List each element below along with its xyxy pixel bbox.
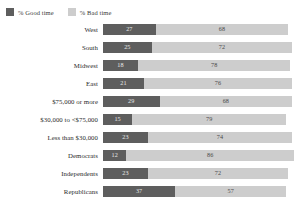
chart-bar-row: Democrats1286 bbox=[0, 146, 306, 164]
category-label: Midwest bbox=[0, 62, 103, 69]
bar-segment-bad-time[interactable]: 78 bbox=[138, 60, 290, 71]
bar-value-bad-time: 86 bbox=[207, 152, 213, 158]
bar-segment-good-time[interactable]: 23 bbox=[103, 168, 148, 179]
bar-value-bad-time: 78 bbox=[211, 62, 217, 68]
legend-item-label: % Good time bbox=[18, 9, 54, 16]
category-label: East bbox=[0, 80, 103, 87]
bar-segment-good-time[interactable]: 29 bbox=[103, 96, 160, 107]
chart-legend: % Good time% Bad time bbox=[0, 0, 306, 19]
bar-value-good-time: 27 bbox=[126, 26, 132, 32]
bar-segment-good-time[interactable]: 23 bbox=[103, 132, 148, 143]
bar-track: 1579 bbox=[103, 114, 306, 125]
chart-bar-row: Less than $30,0002374 bbox=[0, 128, 306, 146]
bar-value-good-time: 37 bbox=[136, 188, 142, 194]
bar-segment-good-time[interactable]: 15 bbox=[103, 114, 132, 125]
bar-value-bad-time: 79 bbox=[206, 116, 212, 122]
bar-track: 2572 bbox=[103, 42, 306, 53]
category-label: $30,000 to <$75,000 bbox=[0, 116, 103, 123]
category-label: $75,000 or more bbox=[0, 98, 103, 105]
bar-segment-bad-time[interactable]: 79 bbox=[132, 114, 286, 125]
legend-swatch-good bbox=[6, 8, 14, 16]
bar-value-bad-time: 72 bbox=[219, 44, 225, 50]
chart-bar-row: West2768 bbox=[0, 20, 306, 38]
bar-value-bad-time: 76 bbox=[215, 80, 221, 86]
bar-segment-good-time[interactable]: 25 bbox=[103, 42, 152, 53]
bar-value-bad-time: 72 bbox=[215, 170, 221, 176]
bar-value-bad-time: 57 bbox=[228, 188, 234, 194]
bar-value-good-time: 15 bbox=[114, 116, 120, 122]
chart-plot-area: West2768South2572Midwest1878East2176$75,… bbox=[0, 20, 306, 200]
chart-bar-row: $75,000 or more2968 bbox=[0, 92, 306, 110]
bar-segment-good-time[interactable]: 27 bbox=[103, 24, 156, 35]
bar-value-good-time: 18 bbox=[117, 62, 123, 68]
category-label: Republicans bbox=[0, 188, 103, 195]
bar-track: 2176 bbox=[103, 78, 306, 89]
bar-value-good-time: 23 bbox=[122, 134, 128, 140]
legend-item-label: % Bad time bbox=[80, 9, 112, 16]
category-label: Democrats bbox=[0, 152, 103, 159]
legend-item[interactable]: % Bad time bbox=[68, 8, 112, 16]
chart-bar-row: $30,000 to <$75,0001579 bbox=[0, 110, 306, 128]
bar-value-good-time: 12 bbox=[112, 152, 118, 158]
bar-value-good-time: 23 bbox=[122, 170, 128, 176]
bar-segment-bad-time[interactable]: 57 bbox=[175, 186, 286, 197]
bar-value-good-time: 25 bbox=[124, 44, 130, 50]
bar-value-good-time: 29 bbox=[128, 98, 134, 104]
bar-track: 2372 bbox=[103, 168, 306, 179]
bar-track: 3757 bbox=[103, 186, 306, 197]
bar-segment-bad-time[interactable]: 74 bbox=[148, 132, 292, 143]
legend-swatch-bad bbox=[68, 8, 76, 16]
category-label: South bbox=[0, 44, 103, 51]
bar-segment-bad-time[interactable]: 72 bbox=[148, 168, 288, 179]
chart-bar-row: Republicans3757 bbox=[0, 182, 306, 200]
bar-segment-bad-time[interactable]: 76 bbox=[144, 78, 292, 89]
bar-segment-bad-time[interactable]: 68 bbox=[160, 96, 293, 107]
bar-track: 2768 bbox=[103, 24, 306, 35]
bar-segment-good-time[interactable]: 21 bbox=[103, 78, 144, 89]
category-label: West bbox=[0, 26, 103, 33]
bar-segment-bad-time[interactable]: 68 bbox=[156, 24, 289, 35]
bar-track: 1878 bbox=[103, 60, 306, 71]
chart-bar-row: Independents2372 bbox=[0, 164, 306, 182]
bar-segment-bad-time[interactable]: 86 bbox=[126, 150, 294, 161]
bar-segment-good-time[interactable]: 12 bbox=[103, 150, 126, 161]
bar-value-bad-time: 74 bbox=[217, 134, 223, 140]
chart-bar-row: South2572 bbox=[0, 38, 306, 56]
chart-bar-row: Midwest1878 bbox=[0, 56, 306, 74]
category-label: Less than $30,000 bbox=[0, 134, 103, 141]
bar-track: 2374 bbox=[103, 132, 306, 143]
bar-value-good-time: 21 bbox=[120, 80, 126, 86]
stacked-bar-chart: % Good time% Bad time West2768South2572M… bbox=[0, 0, 306, 202]
legend-item[interactable]: % Good time bbox=[6, 8, 54, 16]
bar-track: 1286 bbox=[103, 150, 306, 161]
bar-value-bad-time: 68 bbox=[219, 26, 225, 32]
bar-track: 2968 bbox=[103, 96, 306, 107]
chart-bar-row: East2176 bbox=[0, 74, 306, 92]
bar-segment-bad-time[interactable]: 72 bbox=[152, 42, 292, 53]
category-label: Independents bbox=[0, 170, 103, 177]
bar-segment-good-time[interactable]: 37 bbox=[103, 186, 175, 197]
bar-value-bad-time: 68 bbox=[223, 98, 229, 104]
bar-segment-good-time[interactable]: 18 bbox=[103, 60, 138, 71]
